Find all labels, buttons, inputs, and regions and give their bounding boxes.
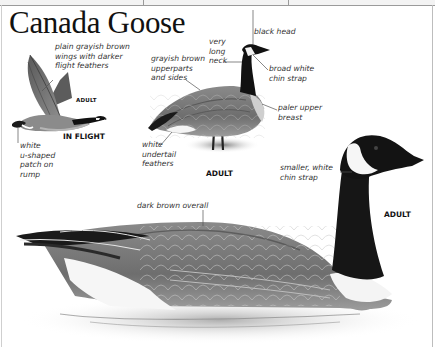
label-standing-breast: paler upper breast (278, 103, 322, 122)
label-swimming-overall: dark brown overall (137, 201, 208, 211)
caption-flight-age: ADULT (76, 97, 97, 103)
label-standing-chin: broad white chin strap (269, 64, 314, 83)
label-flight-rump: white u-shaped patch on rump (20, 141, 55, 179)
label-standing-upperparts: grayish brown upperparts and sides (151, 54, 205, 83)
caption-in-flight: IN FLIGHT (63, 132, 105, 141)
label-standing-neck: very long neck (209, 37, 227, 66)
label-standing-undertail: white undertail feathers (142, 140, 176, 169)
label-swimming-chin: smaller, white chin strap (280, 163, 333, 182)
swimming-goose (16, 135, 424, 344)
label-flight-wings: plain grayish brown wings with darker fl… (55, 42, 130, 71)
field-guide-page: Canada Goose (0, 0, 435, 347)
caption-standing-adult: ADULT (206, 169, 233, 178)
caption-swimming-adult: ADULT (384, 210, 411, 219)
label-standing-head: black head (254, 27, 296, 37)
